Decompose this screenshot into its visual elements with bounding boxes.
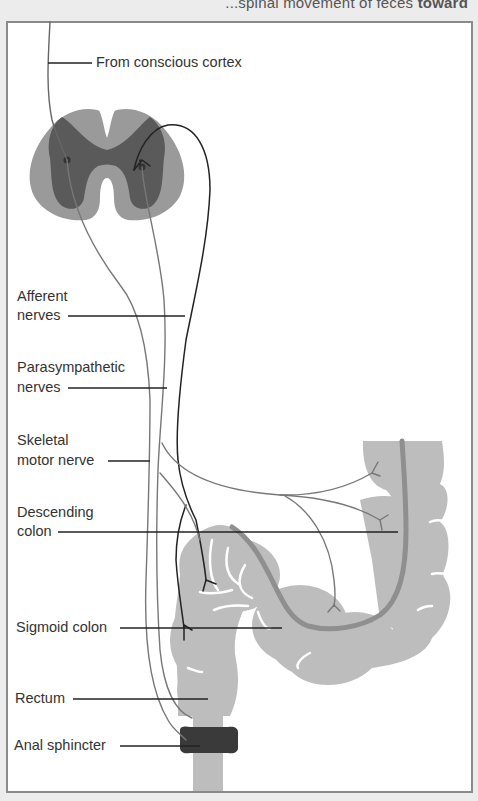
label-anal-sphincter: Anal sphincter: [14, 736, 106, 755]
label-rectum: Rectum: [15, 689, 65, 708]
skeletal-motor-nerve-path: [67, 160, 186, 740]
label-from-conscious-cortex: From conscious cortex: [96, 53, 242, 72]
rectum-ampulla: [177, 660, 233, 720]
sigmoid-haustra-3: [315, 612, 395, 668]
label-afferent-nerves-line1: Afferent: [17, 287, 68, 306]
defecation-reflex-diagram: [0, 0, 478, 801]
parasympathetic-branch-sigmoid: [160, 473, 200, 540]
spinal-cord-cross-section: [30, 109, 185, 220]
label-skeletal-line2: motor nerve: [17, 451, 94, 470]
label-descending-colon-line1: Descending: [17, 503, 94, 522]
parasympathetic-branch-upper: [162, 443, 372, 495]
label-skeletal-line1: Skeletal: [17, 431, 69, 450]
anal-sphincter: [180, 726, 238, 753]
label-sigmoid-colon: Sigmoid colon: [16, 618, 107, 637]
label-parasympathetic-line1: Parasympathetic: [17, 358, 125, 377]
label-parasympathetic-line2: nerves: [17, 378, 61, 397]
label-afferent-nerves-line2: nerves: [17, 306, 61, 325]
figure-page: ...spinal movement of feces toward: [0, 0, 478, 801]
label-descending-colon-line2: colon: [17, 522, 52, 541]
